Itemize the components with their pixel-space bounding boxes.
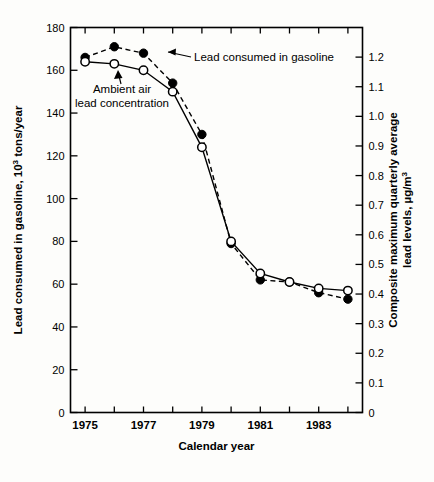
x-tick-label: 1975: [72, 419, 98, 431]
x-tick-label: 1979: [189, 419, 215, 431]
y-tick-label-left: 60: [52, 278, 64, 290]
marker-filled: [344, 295, 352, 303]
lead-consumed-annotation-label: Lead consumed in gasoline: [194, 51, 334, 63]
y-tick-label-left: 80: [52, 235, 64, 247]
marker-open: [139, 66, 147, 74]
x-tick-label: 1983: [306, 419, 332, 431]
y-tick-label-right: 0.2: [369, 347, 384, 359]
x-tick-label: 1981: [248, 419, 274, 431]
marker-open: [315, 284, 323, 292]
y-tick-label-left: 100: [46, 193, 64, 205]
y-tick-label-left: 180: [46, 22, 64, 34]
y-right-title-line1: Composite maximum quarterly average: [387, 112, 399, 327]
y-axis-title-left: Lead consumed in gasoline, 103 tons/year: [11, 105, 24, 334]
marker-open: [169, 87, 177, 95]
ambient-air-annotation-arrow: [114, 70, 123, 79]
y-tick-label-left: 140: [46, 107, 64, 119]
ambient-air-annotation-line1: Ambient air: [93, 83, 151, 95]
chart-canvas: 1975197719791981198302040608010012014016…: [0, 0, 434, 482]
y-tick-label-left: 0: [58, 407, 64, 419]
y-tick-label-right: 0.4: [369, 288, 384, 300]
y-left-title-part2: tons/year: [12, 105, 24, 160]
y-axis-title-right: Composite maximum quarterly averagelead …: [387, 112, 413, 327]
y-axis-title-left-text: Lead consumed in gasoline, 103 tons/year: [11, 105, 24, 334]
marker-open: [198, 143, 206, 151]
y-tick-label-left: 40: [52, 321, 64, 333]
y-right-title-line2-part1: lead levels, µg/m: [401, 176, 413, 268]
marker-open: [285, 278, 293, 286]
y-tick-label-right: 0: [369, 407, 375, 419]
y-tick-label-right: 0.9: [369, 140, 384, 152]
y-right-title-line2: lead levels, µg/m3: [400, 171, 413, 268]
y-tick-label-right: 0.1: [369, 377, 384, 389]
y-tick-label-right: 0.6: [369, 229, 384, 241]
y-tick-label-right: 1.2: [369, 51, 384, 63]
y-tick-label-right: 0.3: [369, 318, 384, 330]
lead-trend-figure: 1975197719791981198302040608010012014016…: [0, 0, 434, 482]
marker-filled: [198, 130, 206, 138]
y-right-title-line2-sup: 3: [400, 171, 409, 176]
y-tick-label-right: 0.8: [369, 170, 384, 182]
y-tick-label-right: 0.5: [369, 258, 384, 270]
y-tick-label-right: 0.7: [369, 199, 384, 211]
marker-filled: [139, 49, 147, 57]
marker-filled: [110, 43, 118, 51]
marker-open: [344, 286, 352, 294]
y-left-title-part1: Lead consumed in gasoline, 10: [12, 164, 24, 334]
y-tick-label-right: 1.1: [369, 81, 384, 93]
x-axis-title: Calendar year: [178, 440, 255, 452]
ambient-air-annotation-line2: lead concentration: [75, 97, 169, 109]
marker-open: [256, 269, 264, 277]
marker-filled: [169, 79, 177, 87]
y-tick-label-left: 20: [52, 364, 64, 376]
lead-consumed-annotation-arrow: [168, 49, 176, 56]
marker-open: [81, 58, 89, 66]
marker-open: [227, 237, 235, 245]
y-tick-label-right: 1.0: [369, 110, 384, 122]
y-tick-label-left: 120: [46, 150, 64, 162]
marker-open: [110, 60, 118, 68]
x-tick-label: 1977: [131, 419, 157, 431]
y-tick-label-left: 160: [46, 64, 64, 76]
